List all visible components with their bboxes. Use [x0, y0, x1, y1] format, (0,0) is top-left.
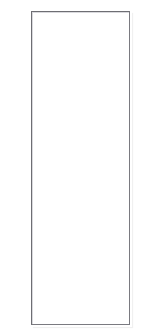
blank-panel[interactable] [31, 11, 130, 325]
panel-content-area [32, 12, 129, 324]
screen-root [0, 0, 151, 336]
